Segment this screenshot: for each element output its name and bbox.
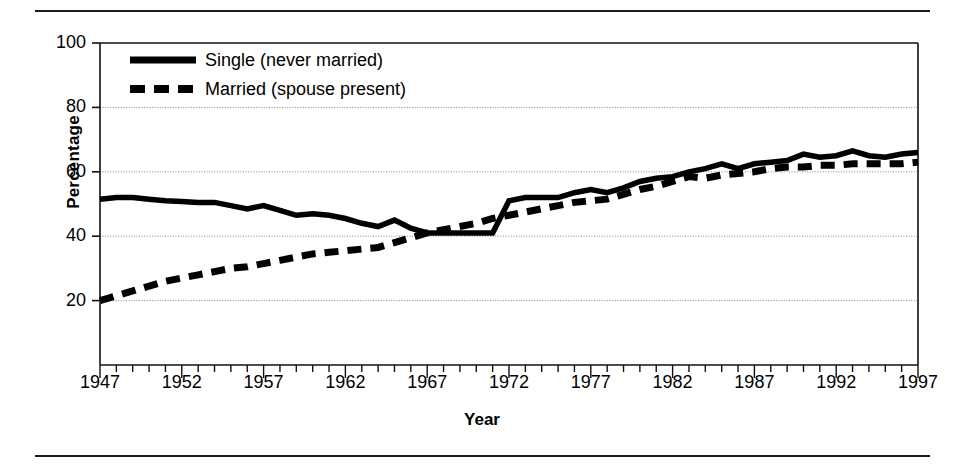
x-axis-label: Year <box>0 410 964 430</box>
y-axis-tick-label: 20 <box>30 290 86 311</box>
legend-label-married: Married (spouse present) <box>205 79 406 100</box>
series-line-married <box>100 162 918 300</box>
figure-container: Percentage Year 20406080100 194719521957… <box>0 0 964 467</box>
y-axis-tick-label: 40 <box>30 225 86 246</box>
x-axis-tick-label: 1952 <box>137 372 227 393</box>
y-axis-tick-label: 60 <box>30 161 86 182</box>
line-chart-svg <box>0 0 964 467</box>
x-axis-tick-label: 1957 <box>219 372 309 393</box>
chart-plot-area <box>0 0 964 467</box>
x-axis-tick-label: 1992 <box>791 372 881 393</box>
legend-label-single: Single (never married) <box>205 50 383 71</box>
x-axis-tick-label: 1977 <box>546 372 636 393</box>
x-axis-tick-label: 1967 <box>382 372 472 393</box>
x-axis-tick-label: 1972 <box>464 372 554 393</box>
x-axis-tick-label: 1962 <box>300 372 390 393</box>
x-axis-tick-label: 1987 <box>709 372 799 393</box>
series-line-single <box>100 151 918 233</box>
y-axis-tick-label: 80 <box>30 96 86 117</box>
x-axis-tick-label: 1982 <box>628 372 718 393</box>
x-axis-tick-label: 1947 <box>55 372 145 393</box>
x-axis-tick-label: 1997 <box>873 372 963 393</box>
y-axis-tick-label: 100 <box>30 32 86 53</box>
